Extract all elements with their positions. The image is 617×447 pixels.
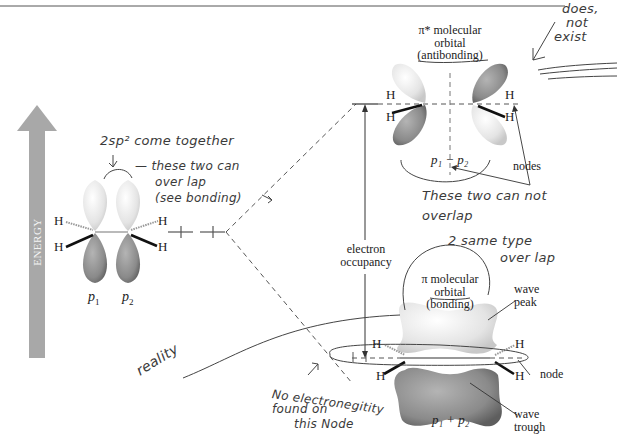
node-label: node (540, 368, 563, 381)
annotation-sp2: 2sp² come together (100, 133, 234, 148)
p1-label: p1 (88, 290, 100, 307)
wave-trough-label: wave trough (514, 408, 545, 433)
annotation-does-not-exist: does, not exist (562, 2, 599, 44)
hydrogen-label: H (515, 337, 524, 351)
annotation-same-type: 2 same type over lap (448, 232, 555, 266)
annotation-no-electronegativity: No electronegitity found on this Node (272, 387, 385, 432)
antibonding-right-lobes (472, 64, 508, 145)
energy-label: ENERGY (31, 218, 43, 266)
atomic-energy-levels (168, 226, 225, 238)
hydrogen-label: H (54, 214, 63, 228)
wave-peak-label: wave peak (514, 283, 539, 308)
hydrogen-label: H (372, 337, 381, 351)
hydrogen-label: H (158, 240, 167, 254)
hydrogen-label: H (505, 110, 514, 124)
hydrogen-label: H (376, 369, 385, 383)
annotation-cannot-overlap: These two can not overlap (422, 186, 547, 226)
hydrogen-label: H (386, 110, 395, 124)
bonding-title: π molecular orbital (bonding) (408, 273, 492, 311)
hydrogen-label: H (158, 214, 167, 228)
annotation-can-overlap: — these two can over lap (see bonding) (135, 158, 242, 206)
hydrogen-label: H (505, 88, 514, 102)
electron-occupancy-label: electron occupancy (330, 243, 402, 268)
hydrogen-label: H (54, 240, 63, 254)
antibonding-title: π* molecular orbital (antibonding) (400, 24, 500, 62)
hydrogen-label: H (386, 88, 395, 102)
p2-label: p2 (122, 290, 134, 307)
hydrogen-label: H (515, 369, 524, 383)
nodes-label: nodes (513, 160, 541, 173)
bonding-combination-label: p₁ + p₂ (432, 413, 469, 427)
antibonding-combination-label: p₁ − p₂ (431, 153, 468, 167)
